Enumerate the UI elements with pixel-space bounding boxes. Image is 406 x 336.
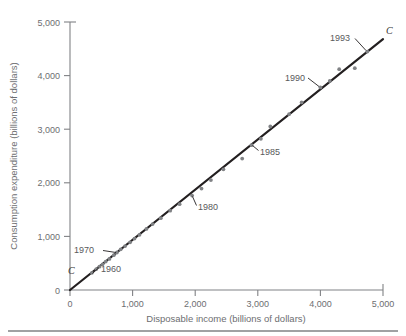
- curve-label-origin: C: [68, 265, 75, 276]
- data-point: [119, 247, 123, 251]
- x-tick-label-2000: 2,000: [184, 299, 207, 309]
- data-point: [222, 167, 226, 171]
- data-point: [151, 222, 155, 226]
- data-point: [178, 202, 182, 206]
- y-tick-label-5000: 5,000: [37, 18, 60, 28]
- x-tick-label-0: 0: [67, 299, 72, 309]
- annotation-leader-1993: [355, 39, 366, 51]
- data-point: [259, 137, 263, 141]
- data-point: [108, 257, 112, 261]
- data-point: [190, 194, 194, 198]
- data-point: [300, 101, 304, 105]
- y-tick-label-group: 0 1,000 2,000 3,000 4,000 5,000: [37, 18, 60, 296]
- data-point: [133, 237, 137, 241]
- annotation-label-1970: 1970: [74, 245, 94, 255]
- data-point: [250, 143, 254, 147]
- x-tick-label-group: 0 1,000 2,000 3,000 4,000 5,000: [67, 299, 394, 309]
- annotation-label-1990: 1990: [285, 73, 305, 83]
- curve-label-end: C: [386, 25, 393, 36]
- data-point: [328, 79, 332, 83]
- figure-container: 0 1,000 2,000 3,000 4,000 5,000 0 1,000 …: [0, 0, 406, 336]
- annotation-leader-1985: [253, 146, 259, 151]
- data-point: [138, 233, 142, 237]
- y-tick-group: [64, 22, 70, 290]
- x-tick-label-3000: 3,000: [247, 299, 270, 309]
- annotation-label-1980: 1980: [198, 202, 218, 212]
- y-tick-label-2000: 2,000: [37, 178, 60, 188]
- annotation-leader-1980: [193, 197, 197, 206]
- data-point: [240, 157, 244, 161]
- y-tick-label-3000: 3,000: [37, 125, 60, 135]
- annotation-label-1993: 1993: [330, 33, 350, 43]
- data-point: [112, 253, 116, 257]
- x-axis-title: Disposable income (billions of dollars): [146, 313, 305, 324]
- data-point: [159, 216, 163, 220]
- annotation-label-1960: 1960: [101, 264, 121, 274]
- data-point: [104, 260, 108, 264]
- data-point: [337, 67, 341, 71]
- x-tick-label-4000: 4,000: [309, 299, 332, 309]
- y-tick-label-0: 0: [55, 286, 60, 296]
- data-point: [200, 187, 204, 191]
- annotation-group: 1960 1970 1980 1985 1990 1993: [74, 33, 366, 274]
- data-point: [128, 240, 132, 244]
- data-point: [145, 227, 149, 231]
- consumption-function-chart: 0 1,000 2,000 3,000 4,000 5,000 0 1,000 …: [0, 0, 406, 336]
- y-tick-label-1000: 1,000: [37, 232, 60, 242]
- y-axis-title: Consumption expenditure (billions of dol…: [8, 62, 19, 249]
- annotation-leader-1990: [308, 78, 319, 87]
- data-point: [168, 209, 172, 213]
- data-point: [209, 178, 213, 182]
- annotation-label-1985: 1985: [260, 147, 280, 157]
- y-tick-label-4000: 4,000: [37, 71, 60, 81]
- x-tick-label-1000: 1,000: [121, 299, 144, 309]
- annotation-leader-1970: [103, 251, 116, 253]
- x-tick-group: [70, 290, 383, 296]
- x-tick-label-5000: 5,000: [372, 299, 395, 309]
- data-point: [123, 244, 127, 248]
- data-point: [268, 125, 272, 129]
- axes-group: [70, 22, 383, 290]
- data-point: [353, 66, 357, 70]
- data-point: [287, 112, 291, 116]
